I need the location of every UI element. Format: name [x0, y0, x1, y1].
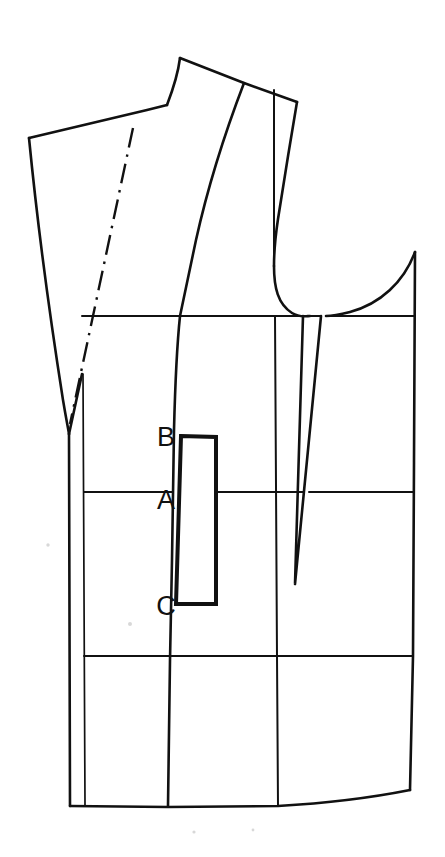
armhole-top-edge: [274, 102, 297, 266]
side-panel-seam-lower: [275, 316, 278, 806]
point-label-A: A: [157, 485, 175, 515]
point-label-C: C: [156, 591, 176, 621]
pattern-diagram: B A C: [0, 0, 445, 857]
side-seam-right-edge: [410, 252, 415, 790]
lapel-shoulder-edge: [29, 105, 167, 138]
scan-speck-2: [192, 830, 195, 833]
pattern-drawing-canvas: B A C: [0, 0, 445, 857]
front-facing-fold-line: [83, 374, 85, 806]
scan-speck-1: [46, 543, 49, 546]
lapel-break-notch: [69, 374, 82, 434]
side-panel-armhole-curve: [326, 252, 415, 316]
scan-speck-3: [252, 829, 255, 832]
front-left-edge: [29, 138, 69, 434]
point-label-B: B: [157, 422, 175, 452]
scan-speck-4: [128, 622, 132, 626]
lapel-roll-line: [70, 128, 133, 424]
welt-pocket-box: [176, 436, 216, 604]
side-body-dart: [295, 316, 321, 584]
armhole-curve: [274, 266, 310, 316]
center-front-edge: [69, 434, 70, 806]
hem-line: [70, 790, 410, 807]
neckline-curve: [167, 58, 180, 105]
